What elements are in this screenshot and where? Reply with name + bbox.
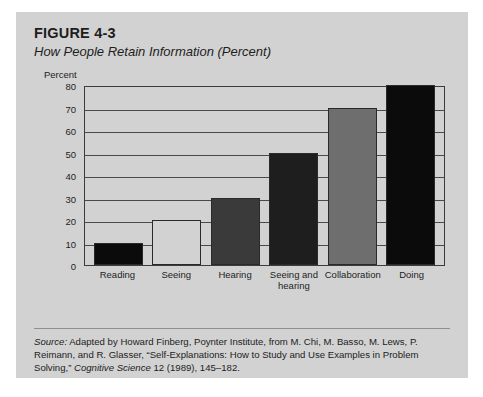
bar[interactable] (211, 198, 260, 266)
y-axis-tick: 30 (65, 193, 76, 204)
bar-slot (89, 87, 148, 265)
x-axis-label-line: Seeing (147, 269, 206, 280)
y-axis-tick: 70 (65, 103, 76, 114)
source-journal: Cognitive Science (74, 362, 151, 373)
y-axis-tick: 80 (65, 81, 76, 92)
x-axis-label-line: Hearing (206, 269, 265, 280)
y-axis-tick: 40 (65, 171, 76, 182)
x-axis-category-labels: ReadingSeeingHearingSeeing andhearingCol… (84, 269, 445, 291)
bar-slot (206, 87, 265, 265)
y-axis-tick-labels: 80706050403020100 (34, 86, 80, 266)
x-axis-label-line: Seeing and (264, 269, 323, 280)
x-axis-label: Reading (88, 269, 147, 291)
x-axis-label-line: Collaboration (323, 269, 382, 280)
x-axis-label-line: Doing (382, 269, 441, 280)
bar[interactable] (386, 85, 435, 265)
x-axis-label: Seeing (147, 269, 206, 291)
source-line3-pre: Solving,” (34, 362, 74, 373)
y-axis-tick: 0 (71, 261, 76, 272)
bars-layer (85, 87, 444, 265)
bar-slot (323, 87, 382, 265)
x-axis-label: Collaboration (323, 269, 382, 291)
x-axis-label: Hearing (206, 269, 265, 291)
y-axis-tick: 60 (65, 126, 76, 137)
bar[interactable] (269, 153, 318, 266)
source-line3-post: 12 (1989), 145–182. (151, 362, 240, 373)
bar[interactable] (152, 220, 201, 265)
y-axis-title: Percent (44, 69, 77, 80)
x-axis-label: Doing (382, 269, 441, 291)
bar-slot (382, 87, 441, 265)
y-axis-tick: 10 (65, 238, 76, 249)
y-axis-tick: 50 (65, 148, 76, 159)
figure-card: FIGURE 4-3 How People Retain Information… (16, 12, 468, 378)
source-line1: Adapted by Howard Finberg, Poynter Insti… (67, 336, 407, 347)
bar-chart: Percent 80706050403020100 ReadingSeeingH… (34, 69, 452, 331)
y-axis-tick: 20 (65, 216, 76, 227)
figure-number: FIGURE 4-3 (34, 25, 444, 42)
figure-header: FIGURE 4-3 How People Retain Information… (34, 25, 444, 60)
source-note: Source: Adapted by Howard Finberg, Poynt… (34, 335, 454, 375)
bar-slot (148, 87, 207, 265)
source-divider (34, 328, 450, 329)
x-axis-label-line: hearing (264, 280, 323, 291)
bar-slot (265, 87, 324, 265)
bar[interactable] (94, 243, 143, 266)
x-axis-label-line: Reading (88, 269, 147, 280)
figure-title: How People Retain Information (Percent) (34, 43, 444, 60)
plot-area (84, 86, 445, 266)
x-axis-label: Seeing andhearing (264, 269, 323, 291)
bar[interactable] (328, 108, 377, 266)
source-label: Source: (34, 336, 67, 347)
